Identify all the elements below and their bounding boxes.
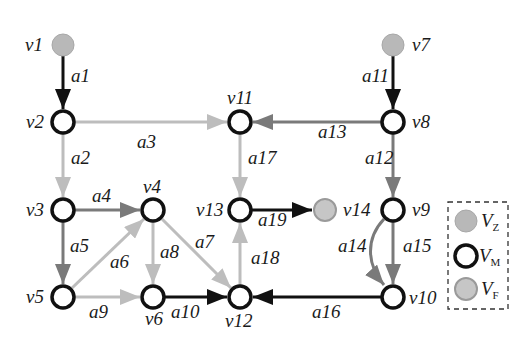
- label-v12: v12: [225, 310, 253, 331]
- label-v11: v11: [227, 87, 253, 108]
- label-a7: a7: [195, 231, 216, 252]
- label-v8: v8: [412, 111, 430, 132]
- label-v1: v1: [25, 34, 43, 55]
- node-v12: [229, 286, 251, 308]
- node-v13: [229, 199, 251, 221]
- label-v5: v5: [26, 286, 44, 307]
- node-v3: [52, 199, 74, 221]
- label-a17: a17: [248, 147, 278, 168]
- label-a16: a16: [312, 301, 341, 322]
- legend-vm-label: VM: [479, 245, 501, 268]
- label-a18: a18: [251, 247, 280, 268]
- nodes: [52, 34, 404, 308]
- label-a19: a19: [258, 209, 287, 230]
- legend-vm-symbol: [455, 245, 477, 267]
- label-a2: a2: [71, 147, 91, 168]
- label-a13: a13: [318, 121, 347, 142]
- node-v6: [142, 286, 164, 308]
- node-v2: [52, 111, 74, 133]
- label-a5: a5: [70, 235, 89, 256]
- legend: VZ VM VF: [448, 202, 508, 309]
- label-a12: a12: [365, 147, 394, 168]
- label-v4: v4: [143, 176, 161, 197]
- label-v14: v14: [343, 199, 371, 220]
- label-a4: a4: [92, 185, 112, 206]
- node-v14: [314, 199, 336, 221]
- label-a3: a3: [137, 131, 156, 152]
- arc-a14: [371, 219, 385, 285]
- label-v10: v10: [409, 287, 437, 308]
- node-v1: [52, 34, 74, 56]
- label-v9: v9: [412, 199, 430, 220]
- node-v8: [382, 111, 404, 133]
- node-v10: [382, 286, 404, 308]
- label-v7: v7: [412, 34, 431, 55]
- legend-vf-label: VF: [481, 278, 499, 301]
- label-v2: v2: [26, 111, 44, 132]
- node-v7: [382, 34, 404, 56]
- label-v13: v13: [196, 199, 223, 220]
- label-v3: v3: [26, 199, 44, 220]
- legend-vz-symbol: [455, 210, 477, 232]
- network-diagram: v1 v2 v3 v4 v5 v6 v7 v8 v9 v10 v11 v12 v…: [0, 0, 530, 342]
- node-v9: [382, 199, 404, 221]
- label-a15: a15: [403, 235, 432, 256]
- label-a11: a11: [362, 65, 389, 86]
- node-v11: [229, 111, 251, 133]
- label-a6: a6: [110, 251, 130, 272]
- label-a9: a9: [89, 301, 109, 322]
- label-v6: v6: [145, 308, 163, 329]
- node-v4: [142, 199, 164, 221]
- label-a14: a14: [338, 235, 367, 256]
- label-a8: a8: [160, 241, 180, 262]
- node-v5: [52, 286, 74, 308]
- label-a10: a10: [171, 301, 200, 322]
- legend-vf-symbol: [455, 278, 477, 300]
- label-a1: a1: [71, 65, 90, 86]
- legend-vz-label: VZ: [481, 210, 500, 233]
